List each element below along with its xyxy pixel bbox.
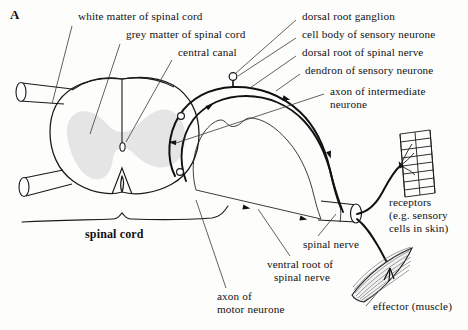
receptor-skin-patch [400,130,435,197]
dorsal-root-ganglion [229,73,237,81]
label-ventral-root-line2: spinal nerve [274,271,330,284]
label-axon-motor-line2: motor neurone [217,303,285,316]
leader-dorsal-root [250,56,296,88]
figure-canvas: A [0,0,468,330]
synapse-node-upper [178,113,185,120]
label-axon-intermediate-line1: axon of intermediate [330,85,426,98]
label-white-matter: white matter of spinal cord [78,10,203,23]
label-axon-motor-line1: axon of [217,290,252,303]
label-receptors-line2: (e.g. sensory [389,209,448,222]
label-dendron-sensory-neurone: dendron of sensory neurone [305,64,433,77]
label-receptors-line1: receptors [389,196,431,209]
central-canal [120,143,125,151]
intermediate-neurone-axon [182,96,343,212]
label-ventral-root-line1: ventral root of [267,258,333,271]
leader-dendron [276,74,300,91]
leader-ventral-root [258,209,290,256]
label-effector-muscle: effector (muscle) [373,300,452,313]
label-axon-intermediate-line2: neurone [330,98,367,111]
synapse-node-lower [177,169,184,176]
label-spinal-cord-brace: spinal cord [85,228,144,241]
left-nerve-stub-lower [19,170,72,197]
label-spinal-nerve: spinal nerve [303,238,359,251]
leader-cell-body [238,38,296,76]
label-dorsal-root-ganglion: dorsal root ganglion [302,10,395,23]
label-cell-body-sensory-neurone: cell body of sensory neurone [302,28,435,41]
label-receptors-line3: cells in skin) [389,222,448,235]
leader-white-matter [52,26,72,104]
leader-grey-matter [90,44,120,134]
spinal-cord-brace [22,206,228,222]
grey-matter-butterfly [67,110,186,180]
motor-axon-to-muscle [357,219,390,268]
arc-inner-contour-base [196,190,321,219]
sensory-neurone-dendron [169,87,341,208]
spinal-nerve-trunk [318,201,362,223]
left-nerve-stub-upper [16,83,72,105]
label-grey-matter: grey matter of spinal cord [126,28,245,41]
label-central-canal: central canal [178,46,237,59]
direction-arrowheads [168,95,404,222]
label-dorsal-root: dorsal root of spinal nerve [302,46,424,59]
